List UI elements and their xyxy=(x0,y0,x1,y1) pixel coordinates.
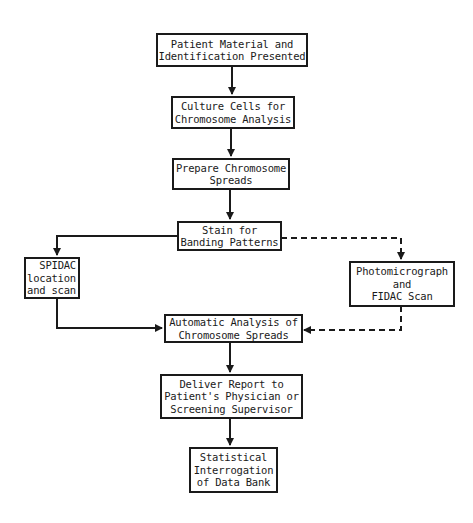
node-stain-banding: Stain for Banding Patterns xyxy=(177,221,282,251)
node-label-line: of Data Bank xyxy=(197,476,270,489)
edge-stain-to-photomicrograph xyxy=(281,238,401,259)
node-automatic-analysis: Automatic Analysis of Chromosome Spreads xyxy=(164,314,303,343)
node-label-line: Identification Presented xyxy=(159,50,306,63)
edge-photomicrograph-to-automatic xyxy=(304,306,401,330)
node-label-line: Statistical xyxy=(200,451,267,464)
node-deliver-report: Deliver Report to Patient's Physician or… xyxy=(160,374,303,419)
node-culture-cells: Culture Cells for Chromosome Analysis xyxy=(171,96,295,129)
edge-stain-to-spidac xyxy=(57,236,178,255)
node-label-line: and xyxy=(393,278,411,291)
node-label-line: Spreads xyxy=(210,174,253,187)
node-label-line: Chromosome Analysis xyxy=(175,113,291,126)
node-prepare-spreads: Prepare Chromosome Spreads xyxy=(172,158,290,190)
node-label-line: Photomicrograph xyxy=(356,265,448,278)
node-label-line: Interrogation xyxy=(194,464,274,477)
node-label-line: location xyxy=(27,272,76,285)
node-label-line: Prepare Chromosome xyxy=(176,162,286,175)
node-label-line: Patient's Physician or xyxy=(164,390,299,403)
node-label-line: Banding Patterns xyxy=(181,236,279,249)
node-label-line: SPIDAC xyxy=(39,259,76,272)
node-label-line: and scan xyxy=(27,284,76,297)
node-statistical-interrogation: Statistical Interrogation of Data Bank xyxy=(189,447,278,493)
node-label-line: Patient Material and xyxy=(171,38,293,51)
edge-spidac-to-automatic xyxy=(57,298,162,328)
node-label-line: Culture Cells for xyxy=(181,100,285,113)
node-label-line: Screening Supervisor xyxy=(170,403,292,416)
node-label-line: Automatic Analysis of xyxy=(169,316,298,329)
flowchart: Patient Material and Identification Pres… xyxy=(0,0,473,523)
node-patient-material: Patient Material and Identification Pres… xyxy=(156,33,308,67)
node-photomicrograph: Photomicrograph and FIDAC Scan xyxy=(349,261,455,307)
node-label-line: Chromosome Spreads xyxy=(178,329,288,342)
node-label-line: Deliver Report to xyxy=(179,378,283,391)
node-label-line: Stain for xyxy=(202,224,257,237)
node-label-line: FIDAC Scan xyxy=(371,290,432,303)
node-spidac: SPIDAC location and scan xyxy=(24,257,80,299)
